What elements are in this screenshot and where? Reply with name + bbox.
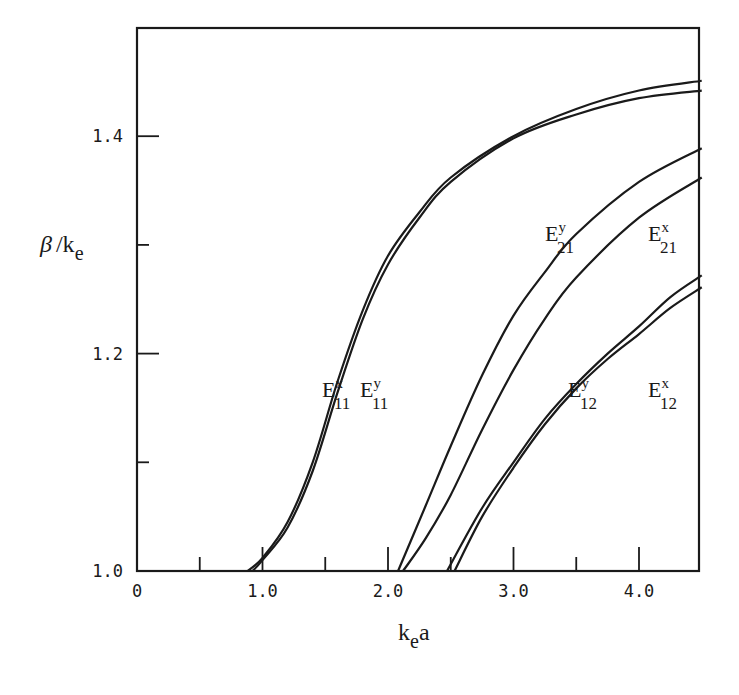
curve-E11-x: [247, 81, 701, 571]
x-axis-label: kea: [398, 619, 430, 652]
x-tick-label: 0: [132, 581, 142, 601]
curve-label-E21-y: Ey21: [545, 219, 574, 257]
y-tick-label: 1.2: [92, 344, 123, 364]
x-tick-label: 1.0: [247, 581, 278, 601]
curve-label-E11-y: Ey11: [360, 375, 388, 413]
curve-E12-x: [455, 287, 702, 571]
y-tick-label: 1.4: [92, 126, 123, 146]
axis-tick-labels: 01.02.03.04.01.01.21.4: [92, 126, 654, 601]
x-tick-label: 3.0: [498, 581, 529, 601]
axis-ticks: [137, 136, 639, 571]
plot-frame: [137, 28, 699, 571]
x-tick-label: 4.0: [624, 581, 655, 601]
curve-label-E12-y: Ey12: [568, 375, 597, 413]
x-tick-label: 2.0: [373, 581, 404, 601]
y-tick-label: 1.0: [92, 561, 123, 581]
curve-label-E21-x: Ex21: [648, 219, 677, 257]
curve-label-E12-x: Ex12: [648, 375, 677, 413]
mode-curves: [247, 81, 701, 571]
y-axis-label: β/ke: [39, 231, 84, 264]
chart-canvas: 01.02.03.04.01.01.21.4 Ex11Ey11Ey21Ex21E…: [0, 0, 739, 695]
curve-label-E11-x: Ex11: [322, 375, 350, 413]
curve-labels: Ex11Ey11Ey21Ex21Ey12Ex12: [322, 219, 677, 413]
